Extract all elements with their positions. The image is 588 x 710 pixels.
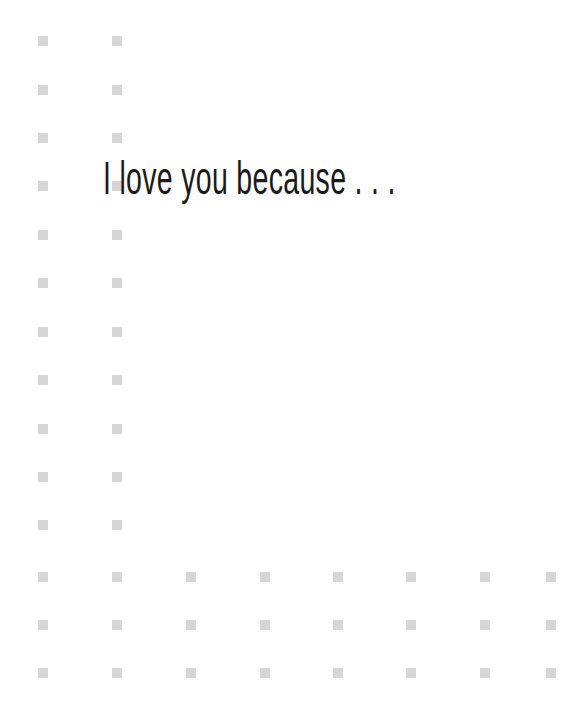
grid-square bbox=[38, 668, 48, 678]
grid-square bbox=[38, 230, 48, 240]
grid-square bbox=[38, 36, 48, 46]
grid-square bbox=[112, 424, 122, 434]
grid-square bbox=[38, 327, 48, 337]
grid-square bbox=[38, 620, 48, 630]
grid-square bbox=[112, 36, 122, 46]
grid-square bbox=[112, 520, 122, 530]
grid-square bbox=[480, 572, 490, 582]
grid-square bbox=[112, 472, 122, 482]
grid-square bbox=[480, 668, 490, 678]
grid-square bbox=[38, 85, 48, 95]
grid-square bbox=[112, 668, 122, 678]
grid-square bbox=[112, 572, 122, 582]
grid-square bbox=[38, 472, 48, 482]
grid-square bbox=[38, 278, 48, 288]
grid-square bbox=[38, 424, 48, 434]
square-dot-grid bbox=[0, 0, 588, 710]
grid-square bbox=[260, 572, 270, 582]
grid-square bbox=[112, 230, 122, 240]
grid-square bbox=[186, 572, 196, 582]
grid-square bbox=[186, 620, 196, 630]
grid-square bbox=[406, 668, 416, 678]
grid-square bbox=[333, 620, 343, 630]
grid-square bbox=[480, 620, 490, 630]
grid-square bbox=[112, 327, 122, 337]
grid-square bbox=[38, 520, 48, 530]
grid-square bbox=[38, 375, 48, 385]
grid-square bbox=[333, 668, 343, 678]
grid-square bbox=[112, 278, 122, 288]
grid-square bbox=[112, 133, 122, 143]
card-canvas: I love you because . . . bbox=[0, 0, 588, 710]
grid-square bbox=[112, 85, 122, 95]
grid-square bbox=[546, 572, 556, 582]
grid-square bbox=[406, 572, 416, 582]
grid-square bbox=[38, 133, 48, 143]
grid-square bbox=[260, 668, 270, 678]
grid-square bbox=[546, 620, 556, 630]
grid-square bbox=[38, 572, 48, 582]
grid-square bbox=[406, 620, 416, 630]
grid-square bbox=[186, 668, 196, 678]
page-title: I love you because . . . bbox=[0, 152, 396, 204]
grid-square bbox=[333, 572, 343, 582]
grid-square bbox=[112, 620, 122, 630]
headline-container: I love you because . . . bbox=[0, 152, 588, 204]
grid-square bbox=[112, 375, 122, 385]
grid-square bbox=[260, 620, 270, 630]
grid-square bbox=[546, 668, 556, 678]
